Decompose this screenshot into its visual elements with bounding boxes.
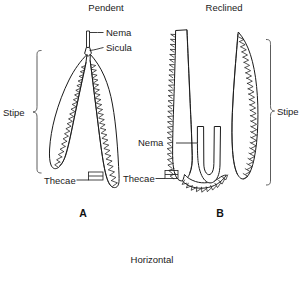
label-stipe-a: Stipe — [3, 107, 25, 118]
label-nema-b: Nema — [138, 137, 164, 148]
label-thecae-b: Thecae — [123, 173, 155, 184]
stipe-bracket-a — [33, 51, 42, 174]
graptolite-morphology-diagram: Pendent Reclined — [0, 0, 305, 281]
panel-letter-a: A — [79, 207, 87, 219]
figure-canvas: Pendent Reclined — [0, 0, 305, 281]
left-stipe-outline-b — [173, 30, 193, 181]
label-thecae-a: Thecae — [44, 175, 76, 186]
panel-b-heading: Reclined — [206, 2, 243, 13]
panel-a-pendent: Nema Sicula Thecae Stipe A — [3, 27, 133, 220]
caption-horizontal: Horizontal — [131, 254, 174, 265]
label-stipe-b: Stipe — [277, 106, 299, 117]
inner-nema-tube-b — [197, 127, 220, 183]
panel-b-reclined: Nema Thecae Stipe B — [123, 30, 299, 219]
panel-a-heading: Pendent — [88, 2, 124, 13]
label-sicula-a: Sicula — [106, 42, 133, 53]
stipe-bracket-b — [266, 40, 275, 186]
thecae-callout-box-a — [89, 172, 104, 180]
sicula-leader-a — [90, 48, 104, 51]
label-nema-a: Nema — [106, 27, 132, 38]
panel-letter-b: B — [216, 207, 224, 219]
